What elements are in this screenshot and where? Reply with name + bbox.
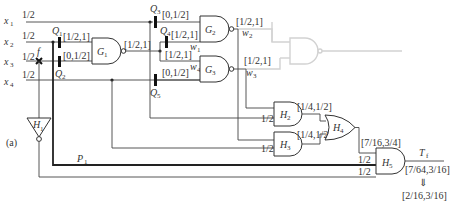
svg-text:f: f [426,152,429,160]
h2-output-label: [1/4,1/2] [297,101,332,112]
switch-q4: Q 4 [160,25,171,48]
svg-text:3: 3 [287,144,291,152]
svg-text:2: 2 [249,32,253,40]
svg-text:1: 1 [197,46,201,54]
wire-x4-to-h3 [112,80,274,148]
svg-text:5: 5 [389,162,393,170]
svg-text:4: 4 [10,81,14,89]
svg-text:2: 2 [62,73,66,81]
svg-text:5: 5 [157,92,161,100]
svg-text:x: x [3,36,9,47]
label-w4: w 4 [190,61,201,74]
gate-h5: H 5 [376,148,405,174]
label-p1: P 1 [76,153,88,166]
svg-text:P: P [76,153,83,164]
svg-text:1/2: 1/2 [22,30,35,41]
svg-text:x: x [3,56,9,67]
h3-input-b-label: 1/2 [261,143,274,154]
svg-text:3: 3 [10,61,14,69]
input-x1: x 1 1/2 [3,9,153,28]
switch-q5: Q 5 [150,74,161,100]
svg-text:T: T [419,147,426,158]
svg-text:2: 2 [287,114,291,122]
svg-text:1: 1 [84,158,88,166]
circuit-diagram: x 1 1/2 x 2 1/2 x 3 1/2 x 4 1/2 f H 1 [0,0,457,210]
svg-text:1: 1 [104,51,108,59]
wire-h1-to-h5 [39,142,376,178]
svg-text:2: 2 [10,41,14,49]
svg-text:x: x [3,15,9,26]
output-final-label: [2/16,3/16] [402,190,447,201]
h4-output-label: [7/16,3/4] [361,137,401,148]
svg-text:3: 3 [212,69,216,77]
g3-output-label: [1/2,1] [244,55,271,66]
svg-text:3: 3 [157,8,161,16]
svg-text:1/2: 1/2 [22,69,35,80]
svg-text:1/2: 1/2 [22,9,35,20]
g1-output-label: [1/2,1] [124,39,151,50]
gate-g1: G 1 [92,38,126,64]
faint-downstream-gate [272,22,402,64]
figure-label: (a) [6,137,17,149]
gate-h4: H 4 [325,115,355,140]
g1-input-b-label: [0,1/2] [63,50,90,61]
g2-output-label: [1/2,1] [236,16,263,27]
svg-text:w: w [190,61,197,72]
gate-g2: G 2 [200,16,234,42]
svg-text:3: 3 [253,72,257,80]
svg-text:1: 1 [40,125,44,133]
gate-g3: G 3 [200,56,234,82]
output-arrow: ⇓ [419,177,427,188]
gate-h1: H 1 [27,118,51,141]
svg-text:x: x [3,76,9,87]
g1-input-a-label: [1/2,1] [63,31,90,42]
h5-input-b-label: 1/2 [358,154,371,165]
h2-input-b-label: 1/2 [261,113,274,124]
g3-input-b-label: [0,1/2] [162,67,189,78]
g2-input-b-label: [1/2,1] [171,29,198,40]
svg-text:1/2: 1/2 [22,51,35,62]
svg-text:4: 4 [340,127,344,135]
h5-output-label: [7/64,3/16] [405,164,450,175]
h5-input-c-label: 1/2 [358,166,371,177]
svg-text:f: f [37,46,41,57]
g3-input-a-label: [1/2,1] [165,49,192,60]
svg-text:2: 2 [212,29,216,37]
output-tf: T f [419,147,429,160]
g2-input-a-label: [0,1/2] [162,9,189,20]
svg-text:1: 1 [10,20,14,28]
